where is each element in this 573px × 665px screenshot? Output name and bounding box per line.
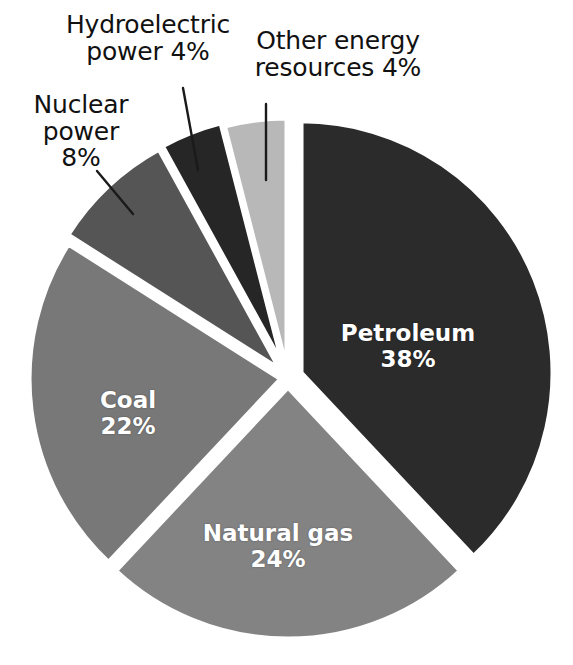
pie-chart: Hydroelectric power 4% Other energy reso… [0, 0, 573, 665]
slice-label-hydroelectric-line1: Hydroelectric [48, 12, 248, 39]
slice-label-nuclear-line2: power [6, 119, 156, 146]
slice-label-nuclear-line1: Nuclear [6, 92, 156, 119]
slice-label-other-energy-line2: resources 4% [238, 55, 438, 82]
slice-label-hydroelectric-line2: power 4% [48, 39, 248, 66]
slice-label-nuclear: Nuclear power 8% [6, 92, 156, 172]
slice-label-petroleum-line2: 38% [318, 347, 498, 373]
slice-label-other-energy-line1: Other energy [238, 28, 438, 55]
slice-label-nuclear-line3: 8% [6, 145, 156, 172]
slice-label-natural-gas-line1: Natural gas [178, 521, 378, 547]
slice-label-natural-gas-line2: 24% [178, 547, 378, 573]
slice-label-other-energy: Other energy resources 4% [238, 28, 438, 81]
slice-label-coal: Coal 22% [58, 388, 198, 440]
slice-label-coal-line1: Coal [58, 388, 198, 414]
slice-label-petroleum: Petroleum 38% [318, 321, 498, 373]
slice-label-petroleum-line1: Petroleum [318, 321, 498, 347]
slice-label-natural-gas: Natural gas 24% [178, 521, 378, 573]
slice-label-coal-line2: 22% [58, 414, 198, 440]
slice-label-hydroelectric: Hydroelectric power 4% [48, 12, 248, 65]
